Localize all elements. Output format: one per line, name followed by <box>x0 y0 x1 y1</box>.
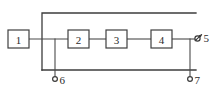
block-4-label: 4 <box>159 34 165 46</box>
block-1-label: 1 <box>16 34 22 46</box>
terminal-7-label: 7 <box>195 74 201 86</box>
block-3-label: 3 <box>114 34 120 46</box>
terminal-6-circle-icon <box>53 77 58 82</box>
diagram-svg: 1 2 3 4 5 6 <box>0 0 218 93</box>
block-2[interactable]: 2 <box>68 30 89 48</box>
block-3[interactable]: 3 <box>106 30 127 48</box>
terminal-6-label: 6 <box>60 74 66 86</box>
terminal-5-label: 5 <box>204 32 210 44</box>
block-diagram-canvas: 1 2 3 4 5 6 <box>0 0 218 93</box>
terminal-5[interactable]: 5 <box>195 32 210 44</box>
block-1[interactable]: 1 <box>8 30 29 48</box>
block-4[interactable]: 4 <box>151 30 172 48</box>
terminal-7-circle-icon <box>188 77 193 82</box>
block-2-label: 2 <box>76 34 82 46</box>
